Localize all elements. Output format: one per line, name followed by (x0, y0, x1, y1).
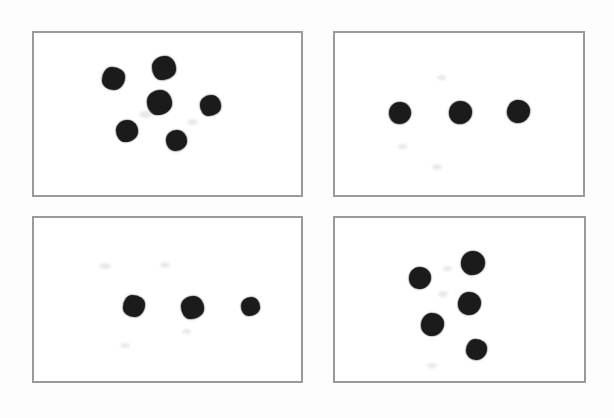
dot-marker (152, 56, 176, 80)
scan-smudge (437, 75, 446, 80)
dot-marker (123, 295, 145, 317)
panel-top-right-dots (335, 33, 583, 195)
dot-marker (466, 339, 487, 360)
panel-top-left-dots (34, 33, 301, 195)
scan-smudge (432, 164, 442, 170)
panel-bottom-left (32, 216, 303, 383)
panel-top-right (333, 31, 585, 197)
dot-marker (147, 90, 172, 115)
scan-smudge (139, 111, 152, 118)
scan-smudge (182, 329, 191, 334)
dot-marker (181, 296, 204, 319)
dot-marker (461, 251, 485, 275)
dot-marker (200, 95, 221, 116)
panel-bottom-right-dots (335, 218, 584, 381)
dot-marker (458, 292, 481, 315)
dot-marker (241, 297, 260, 316)
dot-marker (102, 67, 125, 90)
scan-smudge (427, 363, 437, 368)
dot-marker (166, 130, 187, 151)
panel-bottom-left-dots (34, 218, 301, 381)
panel-bottom-right (333, 216, 586, 383)
scan-smudge (99, 263, 111, 269)
scan-smudge (187, 119, 198, 125)
scan-smudge (443, 266, 452, 271)
dot-marker (116, 120, 138, 142)
dot-marker (507, 100, 530, 123)
scan-smudge (160, 262, 170, 268)
dot-marker (409, 267, 431, 289)
scanned-sheet (0, 0, 614, 418)
scan-smudge (120, 343, 130, 348)
dot-marker (449, 101, 472, 124)
scan-smudge (398, 144, 407, 149)
dot-marker (389, 102, 411, 124)
scan-smudge (438, 291, 448, 297)
dot-marker (421, 313, 444, 336)
panel-top-left (32, 31, 303, 197)
